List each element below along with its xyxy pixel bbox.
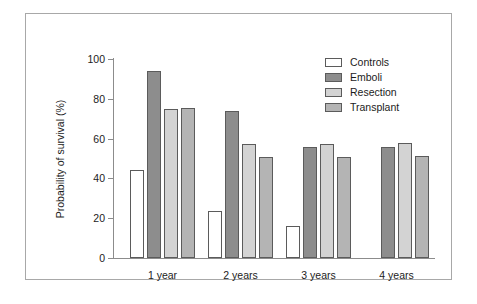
y-tick-mark [108,258,114,259]
y-axis-title: Probability of survival (%) [54,100,66,218]
figure-frame: Probability of survival (%) 020406080100… [25,13,452,280]
legend-label: Controls [350,57,389,68]
y-tick-label: 40 [93,173,105,184]
bar-emboli-3-years [303,147,317,258]
legend-swatch-icon [325,73,342,82]
y-tick-mark [108,178,114,179]
figure-root: Probability of survival (%) 020406080100… [0,0,477,304]
bar-emboli-2-years [225,111,239,258]
bar-controls-1-year [130,170,144,258]
x-axis-category-label: 1 year [148,269,177,281]
legend-item-transplant: Transplant [325,100,399,115]
legend-item-emboli: Emboli [325,70,399,85]
bar-transplant-3-years [337,157,351,258]
bar-emboli-4-years [381,147,395,258]
y-tick-label: 0 [99,253,105,264]
bar-controls-2-years [208,211,222,258]
y-tick-mark [108,99,114,100]
y-tick-mark [108,59,114,60]
bar-resection-4-years [398,143,412,258]
bar-resection-1-year [164,109,178,258]
y-tick-mark [108,218,114,219]
legend-swatch-icon [325,58,342,67]
y-tick-label: 20 [93,213,105,224]
x-axis-line [113,258,435,259]
y-tick-label: 80 [93,94,105,105]
legend-label: Transplant [350,102,399,113]
bar-resection-2-years [242,144,256,258]
bar-group: 1 year [130,59,195,258]
bar-group: 2 years [208,59,273,258]
x-axis-category-label: 4 years [379,269,413,281]
bar-transplant-1-year [181,108,195,258]
legend-item-resection: Resection [325,85,399,100]
bar-transplant-4-years [415,156,429,258]
x-axis-category-label: 2 years [223,269,257,281]
bar-resection-3-years [320,144,334,258]
y-tick-mark [108,139,114,140]
legend-swatch-icon [325,88,342,97]
y-tick-label: 60 [93,133,105,144]
x-axis-category-label: 3 years [301,269,335,281]
bar-emboli-1-year [147,71,161,258]
chart-legend: ControlsEmboliResectionTransplant [325,55,399,115]
legend-label: Resection [350,87,397,98]
legend-item-controls: Controls [325,55,399,70]
legend-swatch-icon [325,103,342,112]
bar-transplant-2-years [259,157,273,258]
legend-label: Emboli [350,72,382,83]
y-tick-label: 100 [87,54,105,65]
bar-controls-3-years [286,226,300,258]
